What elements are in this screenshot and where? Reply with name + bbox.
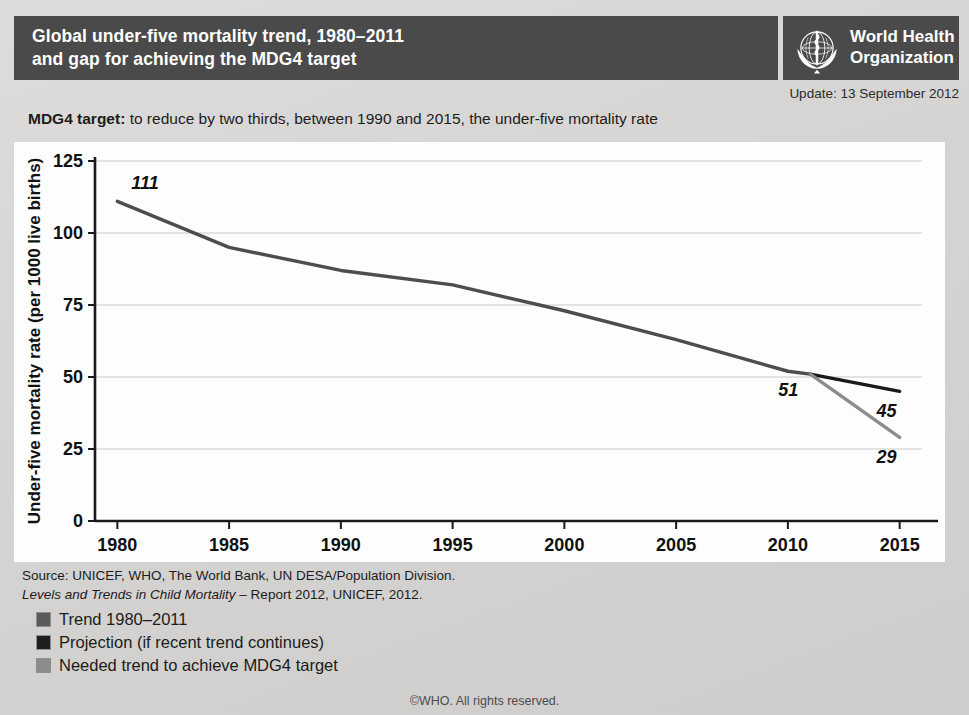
copyright-footer: ©WHO. All rights reserved. (0, 694, 969, 708)
source-line-1: Source: UNICEF, WHO, The World Bank, UN … (22, 566, 455, 585)
data-label: 51 (778, 380, 798, 400)
legend-swatch-icon (36, 658, 51, 673)
header-title-bar: Global under-five mortality trend, 1980–… (14, 16, 778, 80)
y-axis-tick-label: 0 (73, 511, 83, 531)
legend-swatch-icon (36, 635, 51, 650)
source-note: Source: UNICEF, WHO, The World Bank, UN … (22, 566, 455, 604)
legend-item-label: Projection (if recent trend continues) (59, 633, 324, 652)
legend-item: Needed trend to achieve MDG4 target (36, 654, 338, 677)
mdg4-target-caption: MDG4 target: to reduce by two thirds, be… (28, 110, 658, 128)
x-axis-tick-label: 2005 (656, 535, 696, 555)
legend-swatch-icon (36, 612, 51, 627)
mdg4-caption-rest: to reduce by two thirds, between 1990 an… (125, 110, 657, 127)
who-emblem-icon (791, 22, 843, 74)
who-wordmark: World Health Organization (850, 27, 955, 68)
x-axis-tick-label: 1985 (209, 535, 249, 555)
x-axis-tick-label: 2015 (880, 535, 920, 555)
x-axis-tick-label: 1980 (97, 535, 137, 555)
y-axis-title: Under-five mortality rate (per 1000 live… (25, 158, 44, 525)
chart-panel: 0255075100125198019851990199520002005201… (14, 142, 945, 562)
page-title: Global under-five mortality trend, 1980–… (32, 25, 404, 71)
data-label: 29 (876, 447, 897, 467)
y-axis-tick-label: 75 (63, 295, 83, 315)
update-date: Update: 13 September 2012 (789, 86, 959, 101)
header-logo-bar: World Health Organization (783, 16, 959, 80)
mortality-line-chart: 0255075100125198019851990199520002005201… (14, 142, 945, 562)
data-label: 45 (876, 401, 898, 421)
y-axis-tick-label: 100 (53, 223, 83, 243)
header: Global under-five mortality trend, 1980–… (14, 16, 959, 80)
x-axis-tick-label: 1995 (433, 535, 473, 555)
x-axis-tick-label: 1990 (321, 535, 361, 555)
legend-item-label: Needed trend to achieve MDG4 target (59, 656, 338, 675)
x-axis-tick-label: 2000 (544, 535, 584, 555)
chart-legend: Trend 1980–2011Projection (if recent tre… (36, 608, 338, 677)
y-axis-tick-label: 125 (53, 151, 83, 171)
y-axis-tick-label: 25 (63, 439, 83, 459)
source-report-title: Levels and Trends in Child Mortality (22, 587, 236, 602)
y-axis-tick-label: 50 (63, 367, 83, 387)
legend-item-label: Trend 1980–2011 (59, 610, 187, 629)
source-report-rest: – Report 2012, UNICEF, 2012. (236, 587, 423, 602)
mdg4-caption-lead: MDG4 target: (28, 110, 125, 127)
poster-page: Global under-five mortality trend, 1980–… (0, 0, 969, 715)
legend-item: Trend 1980–2011 (36, 608, 338, 631)
x-axis-tick-label: 2010 (768, 535, 808, 555)
data-label: 111 (131, 173, 158, 193)
legend-item: Projection (if recent trend continues) (36, 631, 338, 654)
source-line-2: Levels and Trends in Child Mortality – R… (22, 585, 455, 604)
series-line (117, 201, 810, 374)
